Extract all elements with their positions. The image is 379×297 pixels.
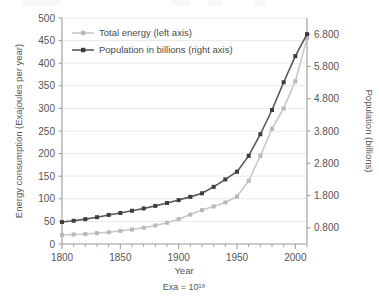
data-point-marker	[177, 198, 181, 202]
data-point-marker	[142, 206, 146, 210]
data-point-marker	[282, 106, 286, 110]
y-axis-right-tick-label: 4.800	[314, 93, 339, 104]
data-point-marker	[282, 80, 286, 84]
data-point-marker	[130, 209, 134, 213]
y-axis-left-title: Energy consumption (Exajoules per year)	[13, 44, 24, 218]
series-line	[62, 38, 307, 235]
x-axis-tick-label: 1800	[51, 252, 74, 263]
data-point-marker	[130, 228, 134, 232]
data-point-marker	[270, 108, 274, 112]
data-point-marker	[235, 195, 239, 199]
data-point-marker	[72, 233, 76, 237]
data-point-marker	[118, 211, 122, 215]
y-axis-right-title: Population (billions)	[364, 90, 375, 173]
data-point-marker	[118, 229, 122, 233]
data-point-marker	[60, 220, 64, 224]
legend-item-label: Total energy (left axis)	[99, 27, 192, 38]
data-point-marker	[200, 191, 204, 195]
data-point-marker	[258, 132, 262, 136]
chart-container: 050100150200250300350400450500 0.8001.80…	[0, 0, 379, 297]
y-axis-left-tick-label: 100	[38, 193, 55, 204]
y-axis-left-tick-label: 250	[38, 126, 55, 137]
y-axis-left-tick-label: 450	[38, 35, 55, 46]
data-point-marker	[200, 208, 204, 212]
data-point-marker	[293, 79, 297, 83]
x-axis-tick-label: 1900	[168, 252, 191, 263]
y-axis-right-tick-label: 3.800	[314, 126, 339, 137]
y-axis-right-tick-label: 6.800	[314, 29, 339, 40]
y-axis-right-tick-label: 1.800	[314, 190, 339, 201]
y-axis-right-ticks: 0.8001.8002.8003.8004.8005.8006.800	[307, 29, 339, 234]
data-point-marker	[305, 32, 309, 36]
y-axis-left-tick-label: 50	[44, 216, 56, 227]
data-point-marker	[153, 204, 157, 208]
y-axis-left-tick-label: 300	[38, 103, 55, 114]
y-axis-left-tick-label: 400	[38, 58, 55, 69]
series-energy	[60, 36, 309, 237]
y-axis-left-tick-label: 0	[49, 239, 55, 250]
data-point-marker	[153, 223, 157, 227]
data-point-marker	[270, 127, 274, 131]
y-axis-right-tick-label: 5.800	[314, 61, 339, 72]
data-point-marker	[258, 154, 262, 158]
data-point-marker	[223, 200, 227, 204]
y-axis-right-tick-label: 0.800	[314, 222, 339, 233]
data-point-marker	[83, 217, 87, 221]
data-point-marker	[142, 226, 146, 230]
cropped-title-remnant	[22, 0, 282, 6]
data-point-marker	[188, 213, 192, 217]
y-axis-left-tick-label: 500	[38, 13, 55, 24]
y-axis-left-tick-label: 200	[38, 148, 55, 159]
chart-footnote: Exa = 10¹⁸	[163, 282, 206, 292]
y-axis-left-tick-label: 150	[38, 171, 55, 182]
data-point-marker	[107, 230, 111, 234]
legend-item[interactable]: Total energy (left axis)	[72, 27, 192, 38]
data-point-marker	[247, 179, 251, 183]
legend-item-label: Population in billions (right axis)	[99, 44, 233, 55]
chart-legend: Total energy (left axis)Population in bi…	[72, 27, 233, 55]
energy-population-line-chart: 050100150200250300350400450500 0.8001.80…	[0, 0, 379, 297]
x-axis-ticks: 18001850190019502000	[51, 244, 307, 263]
data-point-marker	[83, 232, 87, 236]
data-point-marker	[188, 195, 192, 199]
data-point-marker	[95, 215, 99, 219]
data-point-marker	[165, 201, 169, 205]
y-axis-left-ticks: 050100150200250300350400450500	[38, 13, 62, 250]
data-point-marker	[60, 233, 64, 237]
legend-item[interactable]: Population in billions (right axis)	[72, 44, 233, 55]
y-axis-right-tick-label: 2.800	[314, 158, 339, 169]
data-point-marker	[293, 54, 297, 58]
y-axis-left-tick-label: 350	[38, 80, 55, 91]
data-point-marker	[72, 219, 76, 223]
data-point-marker	[165, 221, 169, 225]
data-point-marker	[223, 177, 227, 181]
data-point-marker	[107, 213, 111, 217]
data-point-marker	[95, 231, 99, 235]
x-axis-tick-label: 2000	[284, 252, 307, 263]
data-point-marker	[177, 217, 181, 221]
legend-swatch-marker	[81, 31, 85, 35]
x-axis-tick-label: 1850	[109, 252, 132, 263]
data-point-marker	[212, 204, 216, 208]
data-point-marker	[247, 154, 251, 158]
legend-swatch-marker	[81, 48, 85, 52]
data-point-marker	[235, 170, 239, 174]
x-axis-tick-label: 1950	[226, 252, 249, 263]
x-axis-title: Year	[174, 265, 193, 276]
data-point-marker	[212, 185, 216, 189]
